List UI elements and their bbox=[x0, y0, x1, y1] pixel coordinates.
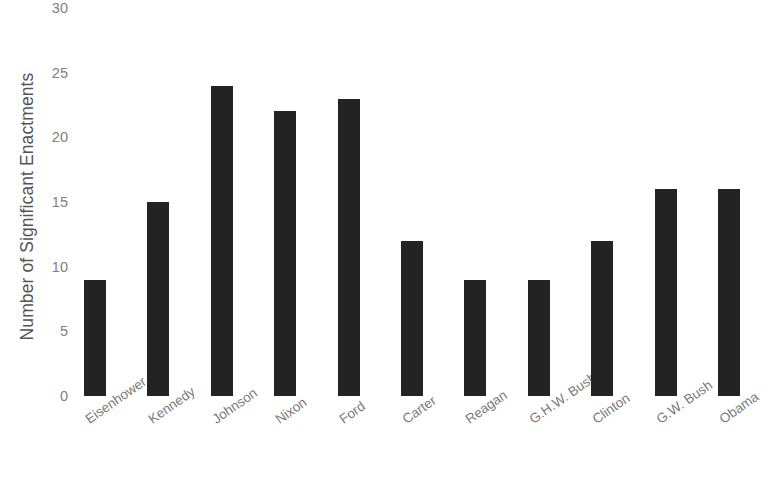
bar bbox=[464, 280, 486, 396]
bar bbox=[591, 241, 613, 396]
x-axis-tick-label: Clinton bbox=[590, 391, 632, 426]
bar bbox=[211, 86, 233, 396]
bar-chart: Number of Significant Enactments 0510152… bbox=[0, 0, 772, 479]
bar bbox=[84, 280, 106, 396]
bar bbox=[338, 99, 360, 396]
x-axis-tick-label: Nixon bbox=[273, 395, 309, 426]
x-axis-tick-label: Carter bbox=[400, 394, 438, 427]
bar bbox=[718, 189, 740, 396]
bar bbox=[655, 189, 677, 396]
plot-area: EisenhowerKennedyJohnsonNixonFordCarterR… bbox=[0, 0, 772, 479]
bar bbox=[528, 280, 550, 396]
bar bbox=[401, 241, 423, 396]
bar bbox=[147, 202, 169, 396]
bar bbox=[274, 111, 296, 396]
x-axis-tick-label: Ford bbox=[337, 399, 367, 426]
